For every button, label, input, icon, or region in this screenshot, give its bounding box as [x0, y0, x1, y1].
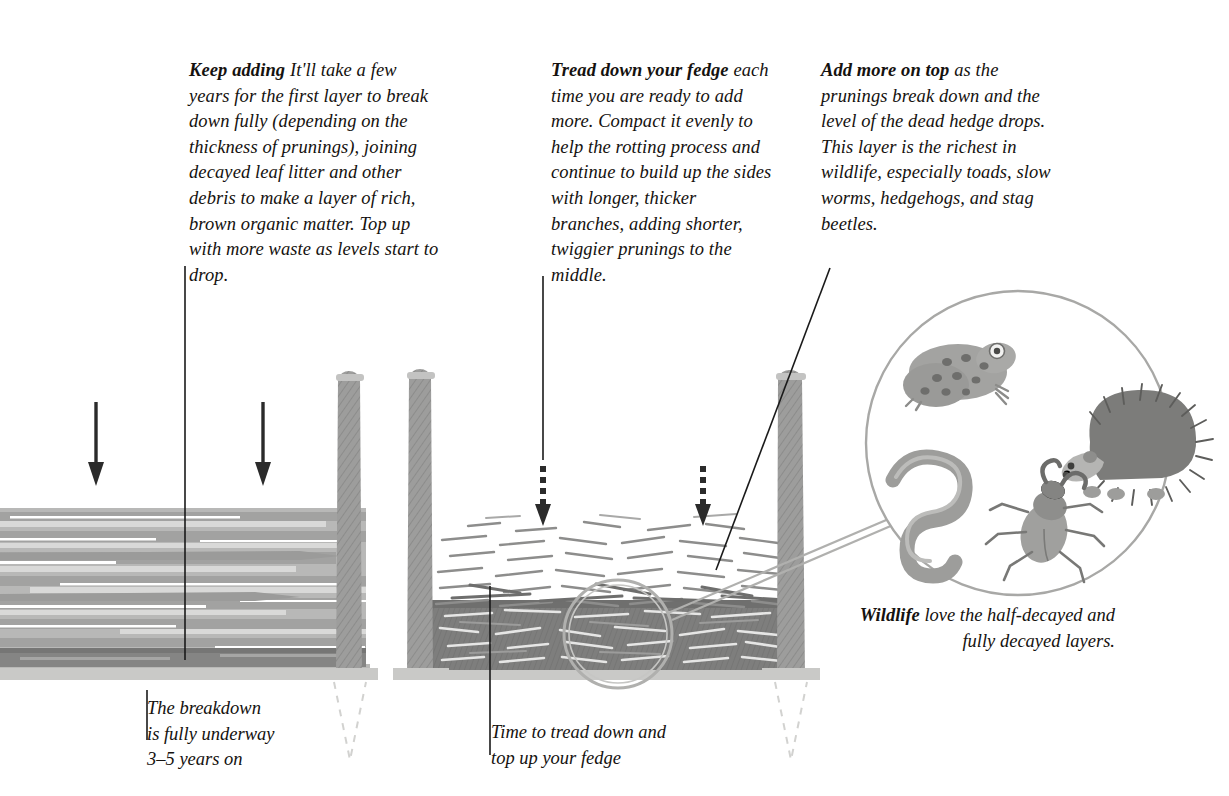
- note-tread-down-lead: Tread down your fedge: [551, 60, 729, 80]
- caption-wildlife-lead: Wildlife: [860, 605, 920, 625]
- note-keep-adding-lead: Keep adding: [189, 60, 285, 80]
- stake-3: [762, 370, 820, 760]
- caption-breakdown-line-1: The breakdown: [147, 696, 397, 722]
- caption-tread-line-1: Time to tread down and: [491, 720, 746, 746]
- solid-down-arrow-left-2: [255, 402, 271, 486]
- caption-tread-down: Time to tread down and top up your fedge: [491, 720, 746, 771]
- illustration-canvas: Keep adding It'll take a few years for t…: [0, 0, 1229, 796]
- solid-down-arrow-left-1: [88, 402, 104, 486]
- caption-tread-line-2: top up your fedge: [491, 746, 746, 772]
- note-keep-adding: Keep adding It'll take a few years for t…: [189, 58, 441, 288]
- left-wood-pile: [0, 508, 366, 667]
- dashed-down-arrow-centre-1: [535, 466, 551, 526]
- note-tread-down-body: each time you are ready to add more. Com…: [551, 60, 771, 285]
- caption-breakdown-line-3: 3–5 years on: [147, 747, 397, 773]
- caption-breakdown-line-2: is fully underway: [147, 722, 397, 748]
- note-keep-adding-body: It'll take a few years for the first lay…: [189, 60, 438, 285]
- note-add-more-body: as the prunings break down and the level…: [821, 60, 1051, 234]
- caption-wildlife-body: love the half-decayed and fully decayed …: [920, 605, 1115, 651]
- note-add-more-on-top: Add more on top as the prunings break do…: [821, 58, 1051, 237]
- caption-wildlife: Wildlife love the half-decayed and fully…: [855, 603, 1115, 654]
- note-tread-down: Tread down your fedge each time you are …: [551, 58, 773, 288]
- centre-pile-compacted-layer: [432, 600, 782, 670]
- note-add-more-lead: Add more on top: [821, 60, 949, 80]
- caption-breakdown: The breakdown is fully underway 3–5 year…: [147, 696, 397, 773]
